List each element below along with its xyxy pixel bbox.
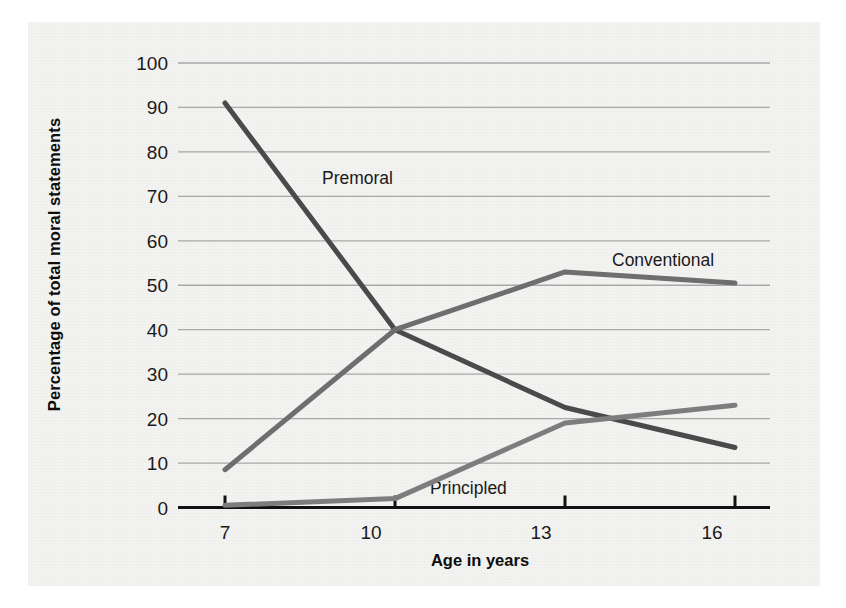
series-line-principled <box>225 405 735 505</box>
series-line-premoral <box>225 103 735 447</box>
chart-page: Percentage of total moral statements 100… <box>0 0 846 608</box>
line-chart-figure: Percentage of total moral statements 100… <box>0 0 846 608</box>
series-lines-group <box>225 103 735 505</box>
gridlines-group <box>178 63 770 463</box>
plot-area <box>0 0 846 608</box>
